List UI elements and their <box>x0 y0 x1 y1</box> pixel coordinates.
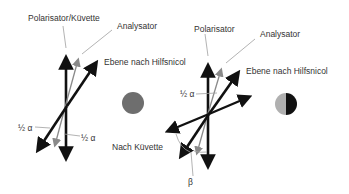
right-leader-analysator <box>226 39 255 63</box>
left-vector-diagram <box>35 26 112 158</box>
label-half-alpha-right: ½ α <box>180 90 194 99</box>
right-field-of-view-circle <box>275 93 297 115</box>
label-half-alpha-left-a: ½ α <box>18 124 32 133</box>
label-half-alpha-left-b: ½ α <box>81 134 95 143</box>
label-analysator-right: Analysator <box>260 30 300 39</box>
left-hilfsnicol-axis-lower <box>38 106 67 150</box>
left-leader-half-alpha-left <box>35 127 50 128</box>
label-polarisator-kuevette: Polarisator/Küvette <box>28 14 100 23</box>
label-ebene-hilfsnicol-left: Ebene nach Hilfsnicol <box>104 58 186 67</box>
left-leader-analysator <box>82 30 112 54</box>
right-leader-beta <box>191 152 193 176</box>
right-vector-diagram <box>168 34 255 176</box>
left-field-of-view-circle <box>122 92 144 114</box>
left-leader-polarisator <box>63 26 66 48</box>
right-leader-polarisator <box>205 34 208 56</box>
polarimeter-diagram: Polarisator/Küvette Analysator Ebene nac… <box>0 0 349 194</box>
right-angle-arc-beta-left <box>176 134 190 152</box>
label-ebene-hilfsnicol-right: Ebene nach Hilfsnicol <box>246 67 328 76</box>
label-nach-kuevette: Nach Küvette <box>112 143 163 152</box>
label-polarisator-right: Polarisator <box>194 25 235 34</box>
right-angle-arc-beta-right <box>194 151 207 152</box>
label-analysator-left: Analysator <box>117 22 157 31</box>
label-beta: β <box>188 178 193 187</box>
